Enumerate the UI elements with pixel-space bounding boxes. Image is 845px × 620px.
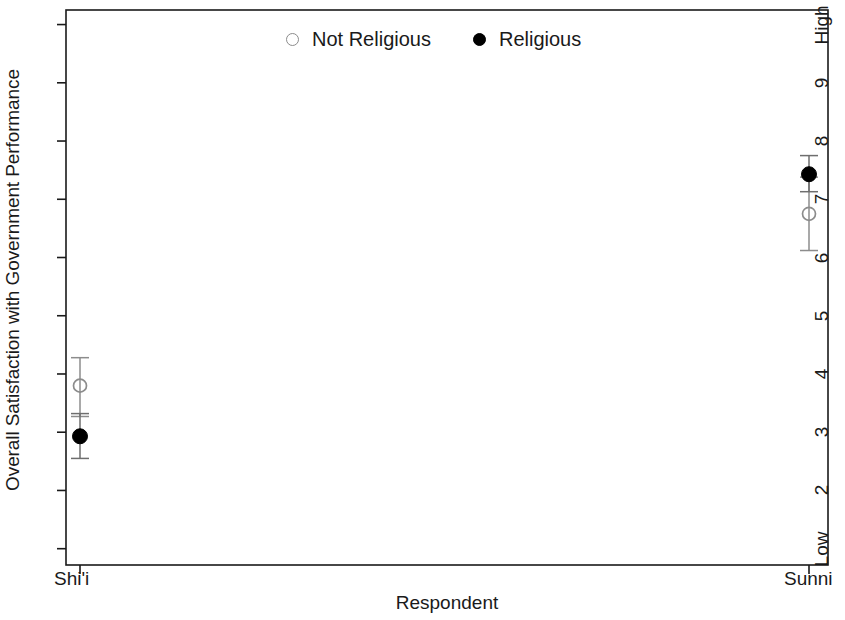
plot-frame	[66, 10, 828, 565]
plot-area	[0, 0, 845, 620]
data-point-religious	[73, 429, 88, 444]
chart-figure: Overall Satisfaction with Government Per…	[0, 0, 845, 620]
data-point-religious	[802, 167, 817, 182]
